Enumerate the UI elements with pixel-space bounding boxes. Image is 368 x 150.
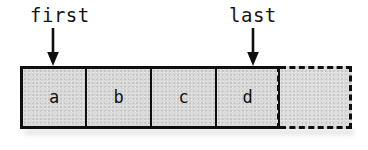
array-cell-value: d — [242, 89, 252, 106]
array-cell-empty — [280, 66, 352, 129]
array-cell: a — [20, 66, 85, 129]
pointer-label-first: first — [30, 6, 90, 25]
array-diagram: first last a b c d — [0, 0, 368, 150]
figure-shadow — [24, 130, 354, 137]
array-cell-value: b — [113, 89, 123, 106]
pointer-arrow-last-icon — [246, 28, 260, 66]
array-cell-value: c — [178, 89, 188, 106]
array-cells: a b c d — [20, 66, 352, 129]
array-cell-value: a — [49, 89, 59, 106]
array-cell: b — [85, 66, 150, 129]
pointer-arrow-first-icon — [46, 28, 60, 66]
pointer-label-last: last — [229, 6, 277, 25]
array-cell: c — [150, 66, 215, 129]
array-cell: d — [215, 66, 280, 129]
